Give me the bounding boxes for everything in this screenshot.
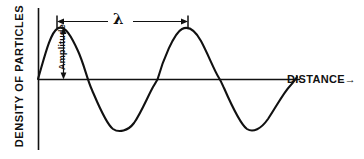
amplitude-label: Amplitude xyxy=(57,17,67,77)
arrow-right-icon: → xyxy=(345,73,356,85)
wavelength-arrowhead-right xyxy=(181,18,188,24)
x-axis-title: DISTANCE→ xyxy=(287,73,356,85)
x-axis-title-text: DISTANCE xyxy=(287,73,345,85)
wave-diagram: DENSITY OF PARTICLES DISTANCE→ Amplitude… xyxy=(0,0,364,159)
y-axis-title: DENSITY OF PARTICLES xyxy=(13,1,25,151)
wavelength-label: λ xyxy=(113,10,124,28)
